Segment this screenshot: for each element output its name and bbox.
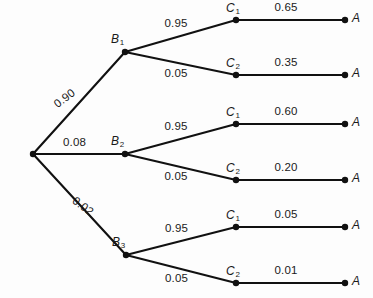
prob-label-B2-C2b: 0.05 <box>165 170 188 182</box>
node-dot-C1a <box>233 17 239 23</box>
terminal-label-A4: A <box>352 171 360 185</box>
probability-tree-diagram: B10.90B20.08B30.02C10.95C20.05C10.95C20.… <box>0 0 373 298</box>
terminal-label-A3: A <box>352 115 360 129</box>
prob-label-C2a-A2: 0.35 <box>275 56 298 68</box>
prob-label-C1c-A5: 0.05 <box>275 208 298 220</box>
prob-label-B1-C2a: 0.05 <box>165 67 188 79</box>
node-label-B1: B1 <box>111 32 124 46</box>
node-dot-C1b <box>233 121 239 127</box>
node-dot-C2c <box>233 280 239 286</box>
node-label-B3: B3 <box>112 235 125 249</box>
prob-label-C1a-A1: 0.65 <box>275 1 298 13</box>
node-label-C1b: C1 <box>226 105 240 119</box>
tree-edges-layer <box>0 0 373 298</box>
node-dot-group <box>30 17 348 286</box>
node-dot-C2b <box>233 177 239 183</box>
terminal-label-A1: A <box>352 11 360 25</box>
prob-label-root-B2: 0.08 <box>63 136 86 148</box>
node-dot-B2 <box>122 151 128 157</box>
node-label-C2a: C2 <box>226 56 240 70</box>
terminal-label-A6: A <box>352 274 360 288</box>
prob-label-B1-C1a: 0.95 <box>165 17 188 29</box>
node-label-C2c: C2 <box>226 264 240 278</box>
node-dot-A6 <box>342 280 348 286</box>
node-dot-C2a <box>233 72 239 78</box>
node-dot-A4 <box>342 177 348 183</box>
node-dot-A1 <box>342 17 348 23</box>
node-dot-A2 <box>342 72 348 78</box>
prob-label-C2b-A4: 0.20 <box>275 161 298 173</box>
prob-label-B3-C1c: 0.95 <box>165 222 188 234</box>
node-dot-B3 <box>123 252 129 258</box>
terminal-label-A5: A <box>352 218 360 232</box>
terminal-label-A2: A <box>352 66 360 80</box>
prob-label-C2c-A6: 0.01 <box>275 264 298 276</box>
node-label-B2: B2 <box>111 134 124 148</box>
root-node-dot <box>30 151 36 157</box>
node-label-C1c: C1 <box>226 208 240 222</box>
node-dot-A3 <box>342 121 348 127</box>
prob-label-C1b-A3: 0.60 <box>275 105 298 117</box>
prob-label-B3-C2c: 0.05 <box>165 272 188 284</box>
node-label-C1a: C1 <box>226 1 240 15</box>
edge-group <box>33 20 345 283</box>
node-dot-B1 <box>122 49 128 55</box>
node-dot-C1c <box>233 224 239 230</box>
node-dot-A5 <box>342 224 348 230</box>
node-label-C2b: C2 <box>226 161 240 175</box>
prob-label-B2-C1b: 0.95 <box>165 120 188 132</box>
